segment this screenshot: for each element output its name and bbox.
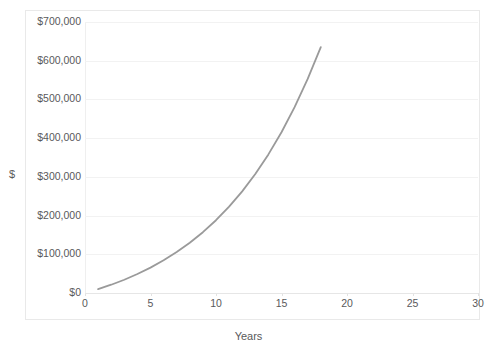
series-line-chart (85, 22, 478, 293)
y-tick-label-400000: $400,000 (37, 132, 81, 143)
x-tick-label-10: 10 (201, 297, 231, 309)
x-axis-title: Years (0, 330, 497, 342)
y-tick-label-600000: $600,000 (37, 55, 81, 66)
gridline-y-0 (85, 293, 478, 294)
plot-area (85, 22, 478, 293)
x-tick-label-20: 20 (332, 297, 362, 309)
y-tick-label-100000: $100,000 (37, 248, 81, 259)
x-tick-label-25: 25 (398, 297, 428, 309)
x-tick-label-15: 15 (267, 297, 297, 309)
y-tick-label-300000: $300,000 (37, 171, 81, 182)
y-axis-title: $ (4, 168, 20, 180)
series-path-compound-growth (98, 47, 321, 289)
x-tick-label-30: 30 (463, 297, 493, 309)
y-tick-label-500000: $500,000 (37, 93, 81, 104)
x-tick-mark-30 (478, 293, 479, 296)
x-tick-label-0: 0 (70, 297, 100, 309)
y-tick-label-700000: $700,000 (37, 16, 81, 27)
y-tick-label-200000: $200,000 (37, 210, 81, 221)
x-tick-label-5: 5 (136, 297, 166, 309)
